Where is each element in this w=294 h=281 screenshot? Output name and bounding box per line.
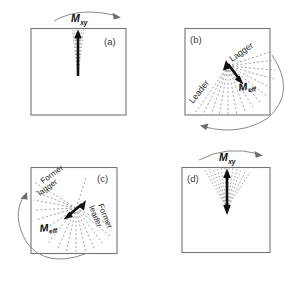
panel-a-rotation-arc [54,12,121,21]
panel-d-arc-arrowhead [255,151,264,158]
panel-d-vector-label: Mxy [219,151,236,166]
panel-b-label: (b) [190,34,202,45]
panel-a-m-subscript: xy [79,19,88,27]
panel-c-arc-arrowhead [21,192,28,200]
panel-c-m-symbol: M [39,221,49,234]
panel-a-m-symbol: M [71,12,80,24]
panel-a-vector-label: Mxy [71,12,88,27]
panel-c-label: (c) [97,173,108,184]
panel-a-arc-arrowhead [113,13,122,20]
spin-dephasing-figure: Mxy (a) [0,0,294,281]
figure-container: Mxy (a) [0,0,294,281]
panel-d-label: (d) [187,173,199,184]
panel-d: Mxy (d) [182,151,270,253]
panel-b: Leader Lagger Meff (b) [185,29,284,131]
svg-text:Mxy: Mxy [71,12,88,27]
panel-c-m-subscript: eff [49,227,58,235]
panel-d-m-symbol: M [219,151,228,163]
panel-b-arc-arrowhead [200,124,209,131]
panel-a: Mxy (a) [31,12,126,115]
panel-d-m-subscript: xy [227,158,236,166]
panel-c: Former lagger Former leader Meff (c) [18,163,117,259]
svg-text:Mxy: Mxy [219,151,236,166]
panel-a-label: (a) [104,36,116,47]
